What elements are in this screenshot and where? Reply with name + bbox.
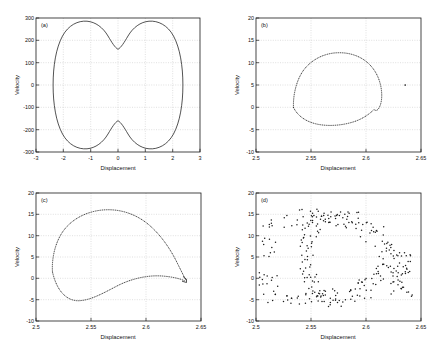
scatter-point (299, 209, 301, 211)
scatter-point (346, 227, 348, 229)
scatter-point (303, 237, 305, 239)
scatter-point (273, 291, 275, 293)
scatter-point (269, 224, 271, 226)
panel-a-ytick-neg200: -200 (23, 127, 34, 133)
panel-c-ytick-15: 15 (28, 211, 34, 217)
panel-a-xtick-1: 1 (144, 155, 147, 161)
scatter-point (393, 268, 395, 270)
scatter-point (393, 250, 395, 252)
scatter-point (317, 300, 319, 302)
panel-c-yticks (36, 193, 39, 321)
scatter-point (262, 283, 264, 285)
scatter-point (372, 283, 374, 285)
scatter-point (365, 290, 367, 292)
scatter-point (318, 211, 320, 213)
panel-a-xtick-3: 3 (199, 155, 202, 161)
scatter-point (411, 294, 413, 296)
panel-b-xticks (256, 149, 421, 152)
scatter-point (296, 224, 298, 226)
scatter-point (405, 265, 407, 267)
scatter-point (344, 213, 346, 215)
scatter-point (311, 215, 313, 217)
scatter-point (330, 302, 332, 304)
scatter-point (262, 279, 264, 281)
scatter-point (269, 226, 271, 228)
scatter-point (305, 294, 307, 296)
scatter-point (307, 222, 309, 224)
panel-a-xtick-2: 2 (171, 155, 174, 161)
scatter-point (307, 256, 309, 258)
scatter-point (390, 265, 392, 267)
panel-d-xtick-265: 2.65 (416, 324, 427, 330)
scatter-point (406, 291, 408, 293)
scatter-point (406, 255, 408, 257)
scatter-point (312, 254, 314, 256)
scatter-point (335, 225, 337, 227)
scatter-point (301, 255, 303, 257)
scatter-point (393, 290, 395, 292)
scatter-point (328, 218, 330, 220)
scatter-point (404, 252, 406, 254)
scatter-point (269, 239, 271, 241)
scatter-point (372, 227, 374, 229)
scatter-point (334, 290, 336, 292)
scatter-point (262, 225, 264, 227)
panel-b-tag: (b) (261, 22, 268, 28)
scatter-point (391, 244, 393, 246)
panel-b-xtick-265: 2.65 (416, 155, 427, 161)
panel-a-ytick-100: 100 (25, 60, 34, 66)
scatter-point (298, 296, 300, 298)
scatter-point (308, 224, 310, 226)
scatter-point (399, 280, 401, 282)
scatter-point (340, 306, 342, 308)
scatter-point (390, 247, 392, 249)
scatter-point (383, 226, 385, 228)
panel-a-tag: (a) (41, 22, 48, 28)
scatter-point (386, 250, 388, 252)
scatter-point (390, 271, 392, 273)
panel-b-ytick-neg5: -5 (249, 127, 254, 133)
panel-d-ytick-20: 20 (248, 190, 254, 196)
scatter-point (397, 255, 399, 257)
scatter-point (390, 253, 392, 255)
scatter-point (386, 265, 388, 267)
scatter-point (318, 281, 320, 283)
scatter-point (342, 301, 344, 303)
scatter-point (350, 289, 352, 291)
scatter-point (355, 224, 357, 226)
panel-d-yticks (256, 193, 259, 321)
scatter-point (314, 281, 316, 283)
panel-d-xticks (256, 318, 421, 321)
scatter-point (307, 259, 309, 261)
scatter-point (397, 279, 399, 281)
scatter-point (347, 216, 349, 218)
scatter-point (393, 255, 395, 257)
scatter-point (358, 282, 360, 284)
scatter-point (332, 288, 334, 290)
scatter-point (382, 258, 384, 260)
scatter-point (377, 265, 379, 267)
scatter-point (297, 219, 299, 221)
scatter-point (371, 230, 373, 232)
scatter-point (305, 303, 307, 305)
scatter-point (361, 229, 363, 231)
panel-a-ytick-neg100: -100 (23, 104, 34, 110)
scatter-point (408, 291, 410, 293)
scatter-point (354, 300, 356, 302)
panel-c: 20 15 10 5 0 -5 -10 2.5 2.55 2.6 2.65 Di… (0, 175, 220, 351)
scatter-point (300, 268, 302, 270)
scatter-point (283, 301, 284, 303)
scatter-point (275, 294, 277, 296)
scatter-point (346, 219, 348, 221)
scatter-point (401, 282, 403, 284)
scatter-point (330, 211, 332, 213)
scatter-point (383, 234, 385, 236)
panel-c-yaxis-label: Velocity (14, 247, 20, 267)
scatter-point (350, 299, 352, 301)
scatter-point (300, 245, 302, 247)
panel-b-ytick-20: 20 (248, 15, 254, 21)
panel-c-ytick-5: 5 (31, 254, 34, 260)
scatter-point (290, 303, 292, 305)
panel-c-orbit-curve (52, 210, 185, 301)
scatter-point (301, 209, 303, 211)
